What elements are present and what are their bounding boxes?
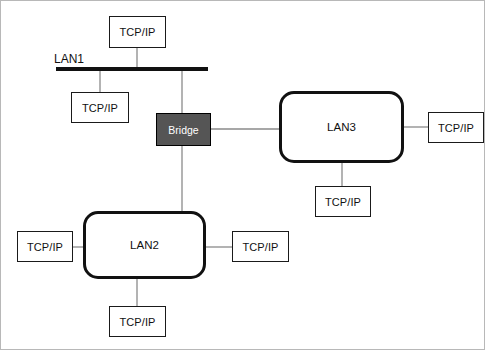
host-lan3-bottom[interactable]: TCP/IP xyxy=(315,186,371,217)
host-label: TCP/IP xyxy=(119,316,155,328)
lan3-node[interactable]: LAN3 xyxy=(279,91,404,163)
host-label: TCP/IP xyxy=(325,196,361,208)
host-label: TCP/IP xyxy=(119,26,155,38)
host-lan1-top[interactable]: TCP/IP xyxy=(109,16,166,48)
lan-label: LAN2 xyxy=(130,239,159,251)
host-lan2-left[interactable]: TCP/IP xyxy=(17,231,73,262)
host-label: TCP/IP xyxy=(438,122,474,134)
host-label: TCP/IP xyxy=(242,241,278,253)
host-lan2-right[interactable]: TCP/IP xyxy=(232,231,289,262)
lan1-bus-bar xyxy=(56,67,208,72)
host-lan3-right[interactable]: TCP/IP xyxy=(428,112,484,143)
network-diagram-canvas: LAN1 TCP/IP TCP/IP Bridge LAN3 TCP/IP TC… xyxy=(0,0,485,350)
host-lan1-left[interactable]: TCP/IP xyxy=(71,92,129,123)
host-label: TCP/IP xyxy=(82,102,118,114)
bridge-label: Bridge xyxy=(168,124,198,136)
lan1-label: LAN1 xyxy=(54,52,84,66)
host-label: TCP/IP xyxy=(27,241,63,253)
host-lan2-bottom[interactable]: TCP/IP xyxy=(109,306,166,337)
bridge-node[interactable]: Bridge xyxy=(156,113,211,146)
lan2-node[interactable]: LAN2 xyxy=(83,211,206,279)
lan-label: LAN3 xyxy=(327,121,356,133)
